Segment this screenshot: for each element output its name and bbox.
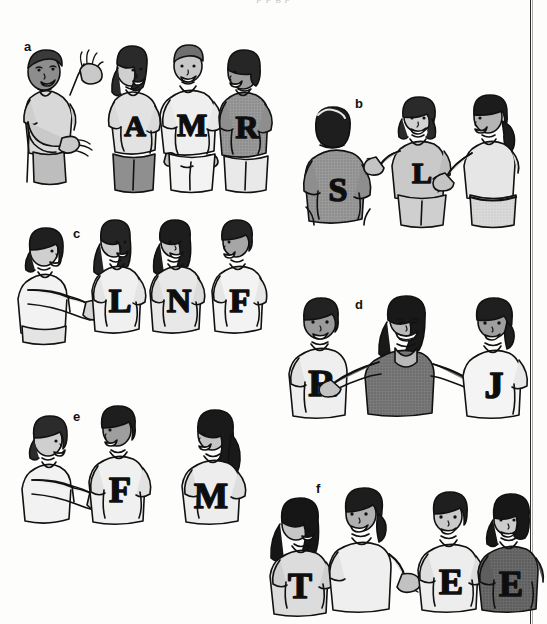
shirt-letter-N: N [167,282,192,319]
panel-e-figures: F M [0,396,280,521]
figure-f-person-E1: E [418,492,484,612]
figure-e-person-M: M [182,410,246,524]
panel-c: c [0,212,280,342]
panel-d: d R [275,290,540,415]
shirt-letter-L: L [412,156,432,189]
shirt-letter-A: A [124,109,146,142]
figure-a-introducer [24,50,103,185]
cut-off-text-line: p p g p [0,0,547,9]
shirt-letter-F: F [230,282,251,319]
panel-a-figures: A M [0,20,290,190]
figure-b-person-L: L [364,97,451,228]
shirt-letter-L: L [109,282,132,319]
panel-c-figures: L N [0,212,280,342]
figure-c-person-L: L [92,220,146,333]
figure-b-person-S: S [304,107,371,225]
shirt-letter-E-light: E [439,562,463,602]
panel-f-figures: T [258,476,538,616]
panel-e: e [0,396,280,521]
figure-f-introducer [329,488,420,612]
shirt-letter-E-dark: E [499,564,523,604]
figure-a-person-A: A [109,46,161,193]
figure-c-person-N: N [150,220,205,333]
figure-d-person-J: J [463,298,527,418]
figure-d-person-R: R [289,298,347,418]
shirt-letter-M: M [177,107,207,143]
shirt-letter-F: F [109,470,131,510]
figure-f-person-E2: E [478,494,543,612]
shirt-letter-R: R [235,109,259,145]
panel-a: a [0,20,290,190]
figure-a-person-R: R [219,50,272,193]
shirt-letter-M: M [194,476,228,516]
shirt-letter-T: T [288,566,312,606]
panel-b-figures: S L [290,85,540,225]
figure-e-person-F: F [89,406,151,524]
panel-f: f T [258,476,538,616]
panel-b: b S [290,85,540,225]
panel-d-figures: R [275,290,540,415]
figure-a-person-M: M [160,45,222,193]
figure-f-person-T: T [270,498,334,616]
figure-c-person-F: F [212,220,267,333]
shirt-letter-S: S [329,171,348,208]
shirt-letter-J: J [485,364,504,406]
